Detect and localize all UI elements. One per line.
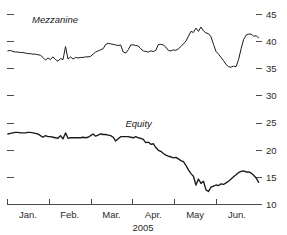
y-tick-label-30: 30 bbox=[266, 90, 277, 101]
x-axis-tick-labels: Jan.Feb.Mar.Apr.MayJun. bbox=[19, 209, 246, 220]
right-axis-tick-labels: 4540353025201510 bbox=[266, 9, 277, 210]
x-tick-label-jun: Jun. bbox=[228, 209, 246, 220]
x-tick-label-apr: Apr. bbox=[145, 209, 162, 220]
x-tick-label-jan: Jan. bbox=[19, 209, 37, 220]
x-tick-label-mar: Mar. bbox=[102, 209, 120, 220]
right-axis-ticks bbox=[256, 15, 262, 178]
x-axis bbox=[7, 199, 262, 205]
y-tick-label-40: 40 bbox=[266, 36, 277, 47]
x-tick-label-may: May bbox=[186, 209, 204, 220]
x-tick-label-feb: Feb. bbox=[60, 209, 79, 220]
series-lines bbox=[8, 27, 259, 191]
series-line-mezzanine bbox=[8, 27, 259, 67]
series-label-mezzanine: Mezzanine bbox=[32, 14, 78, 25]
series-label-equity: Equity bbox=[125, 118, 153, 129]
y-tick-label-20: 20 bbox=[266, 145, 277, 156]
y-tick-label-45: 45 bbox=[266, 9, 277, 20]
series-line-equity bbox=[8, 132, 259, 191]
series-annotations: MezzanineEquity bbox=[32, 14, 153, 129]
x-axis-title: 2005 bbox=[132, 222, 153, 233]
chart-container: 4540353025201510 Jan.Feb.Mar.Apr.MayJun.… bbox=[0, 0, 287, 235]
left-axis-ticks bbox=[7, 15, 14, 178]
y-tick-label-15: 15 bbox=[266, 172, 277, 183]
line-chart: 4540353025201510 Jan.Feb.Mar.Apr.MayJun.… bbox=[0, 0, 287, 235]
y-tick-label-25: 25 bbox=[266, 117, 277, 128]
y-tick-label-10: 10 bbox=[266, 199, 277, 210]
y-tick-label-35: 35 bbox=[266, 63, 277, 74]
